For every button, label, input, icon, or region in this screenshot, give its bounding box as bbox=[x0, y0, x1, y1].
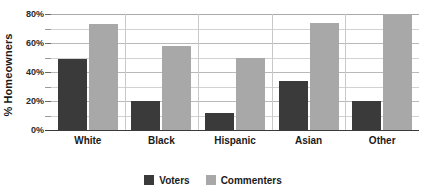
x-tick-label-hispanic: Hispanic bbox=[214, 135, 256, 146]
legend-item-voters[interactable]: Voters bbox=[144, 175, 189, 186]
category-separator bbox=[198, 14, 199, 130]
x-tick-label-white: White bbox=[74, 135, 101, 146]
bar-voters-white bbox=[58, 59, 87, 130]
y-tick-label: 60% bbox=[18, 38, 44, 48]
legend-swatch-commenters bbox=[206, 175, 216, 185]
bar-voters-asian bbox=[279, 81, 308, 130]
bar-voters-other bbox=[352, 101, 381, 130]
legend-swatch-voters bbox=[144, 175, 154, 185]
legend-label-commenters: Commenters bbox=[221, 175, 282, 186]
category-separator bbox=[125, 14, 126, 130]
category-separator bbox=[272, 14, 273, 130]
legend-item-commenters[interactable]: Commenters bbox=[206, 175, 282, 186]
plot-area bbox=[51, 14, 419, 130]
x-tick-label-asian: Asian bbox=[295, 135, 322, 146]
y-tick-label: 20% bbox=[18, 96, 44, 106]
legend-label-voters: Voters bbox=[159, 175, 189, 186]
x-axis-line bbox=[45, 130, 419, 131]
bar-commenters-other bbox=[383, 15, 412, 130]
y-tick-label: 0% bbox=[18, 125, 44, 135]
chart-legend: VotersCommenters bbox=[0, 172, 426, 188]
bar-commenters-white bbox=[89, 24, 118, 130]
bar-commenters-black bbox=[162, 46, 191, 130]
y-axis-tick-labels: 0%20%40%60%80% bbox=[18, 14, 44, 130]
bar-chart: % Homeowners 0%20%40%60%80% WhiteBlackHi… bbox=[0, 0, 426, 194]
x-tick-label-other: Other bbox=[369, 135, 396, 146]
bar-commenters-hispanic bbox=[236, 58, 265, 131]
bar-voters-hispanic bbox=[205, 113, 234, 130]
x-tick-label-black: Black bbox=[148, 135, 175, 146]
gridline-major bbox=[51, 14, 419, 15]
bar-voters-black bbox=[131, 101, 160, 130]
y-tick-label: 80% bbox=[18, 9, 44, 19]
bar-commenters-asian bbox=[310, 23, 339, 130]
y-tick-label: 40% bbox=[18, 67, 44, 77]
x-axis-tick-labels: WhiteBlackHispanicAsianOther bbox=[51, 135, 419, 151]
y-axis-title: % Homeowners bbox=[2, 5, 18, 145]
category-separator bbox=[345, 14, 346, 130]
